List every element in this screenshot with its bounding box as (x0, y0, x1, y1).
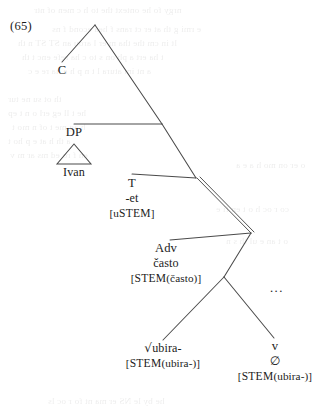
node-adv-label: Adv (131, 241, 202, 256)
node-dp-label: DP (66, 125, 82, 140)
node-v: v ∅ [STEM(ubira-)] (238, 339, 312, 384)
edge-advp-to-ellipsis (224, 233, 251, 277)
node-v-feature-arg: (ubira-) (273, 370, 308, 382)
node-dp-terminal-label: Ivan (63, 165, 85, 180)
node-adv-feature-stem: STEM (135, 272, 167, 284)
node-adv-form: často (131, 256, 202, 271)
node-v-form: ∅ (238, 354, 312, 369)
node-t-label: T (109, 176, 154, 191)
node-root-label: ubira- (152, 341, 181, 355)
dp-triangle (57, 144, 91, 164)
node-adv-feature: [STEM(často)] (131, 271, 202, 286)
node-root: √ubira- [STEM(ubira-)] (126, 341, 200, 370)
node-ellipsis: ... (270, 281, 284, 296)
node-root-feature-arg: (ubira-) (161, 357, 196, 369)
node-dp: DP (66, 125, 82, 140)
example-number-label: (65) (10, 19, 32, 34)
node-dp-terminal: Ivan (63, 165, 85, 180)
node-root-feature: [STEM(ubira-)] (126, 356, 200, 371)
node-c: C (58, 63, 67, 78)
edge-tp-to-tbar (162, 124, 196, 178)
edge-root-to-tp (95, 25, 162, 124)
node-t: T -et [uSTEM] (109, 176, 154, 221)
node-root-feature-close: ] (196, 357, 200, 369)
node-c-label: C (58, 63, 67, 78)
node-adv-feature-arg: (často) (166, 272, 197, 284)
node-t-feature-close: ] (151, 207, 155, 219)
node-v-feature: [STEM(ubira-)] (238, 369, 312, 384)
node-t-feature: [uSTEM] (109, 206, 154, 221)
node-adv-feature-close: ] (197, 272, 201, 284)
node-root-feature-stem: STEM (130, 357, 162, 369)
node-root-form: √ubira- (126, 341, 200, 356)
node-adv: Adv často [STEM(často)] (131, 241, 202, 286)
edge-vp-to-root (163, 277, 224, 340)
edge-tbar-to-advp-a (197, 178, 251, 233)
node-t-feature-stem: STEM (119, 207, 151, 219)
node-v-feature-stem: STEM (242, 370, 274, 382)
syntax-tree-figure: (65) C DP Ivan T -et [uSTEM] (0, 0, 327, 411)
node-v-label: v (238, 339, 312, 354)
edge-vp-to-v (224, 277, 274, 338)
node-v-feature-close: ] (308, 370, 312, 382)
node-t-form: -et (109, 191, 154, 206)
edge-advp-to-adv (170, 233, 251, 240)
node-ellipsis-label: ... (270, 281, 284, 296)
edge-root-to-c (62, 25, 95, 62)
edge-tbar-to-advp-b (200, 177, 254, 232)
